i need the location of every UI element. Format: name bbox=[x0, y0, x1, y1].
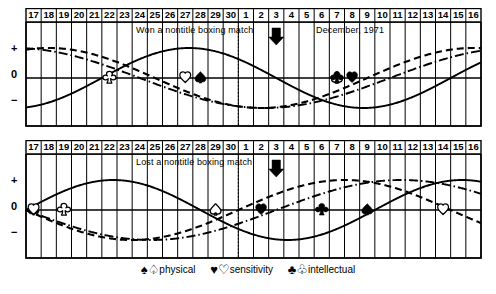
day-label-23: 23 bbox=[117, 141, 132, 152]
chart-panel-top: 1718192021222324252627282930123456789101… bbox=[0, 8, 496, 130]
day-label-1: 1 bbox=[238, 141, 253, 152]
day-label-13: 13 bbox=[420, 141, 435, 152]
day-label-6: 6 bbox=[314, 141, 329, 152]
axis-label-minus-bottom: − bbox=[11, 226, 17, 238]
day-label-25: 25 bbox=[147, 141, 162, 152]
day-label-16: 16 bbox=[466, 9, 481, 20]
day-label-8: 8 bbox=[345, 141, 360, 152]
day-label-3: 3 bbox=[269, 9, 284, 20]
day-label-1: 1 bbox=[238, 9, 253, 20]
event-label-bottom: Lost a nontitle boxing match bbox=[136, 157, 252, 167]
physical-filled-marker-icon bbox=[195, 72, 206, 83]
axis-label-minus-top: − bbox=[11, 94, 17, 106]
event-label-top: Won a nontitle boxing match bbox=[136, 25, 253, 35]
legend-label-intellectual: intellectual bbox=[308, 264, 355, 275]
day-label-23: 23 bbox=[117, 9, 132, 20]
sensitivity-filled-marker-icon bbox=[347, 72, 358, 83]
day-label-19: 19 bbox=[56, 141, 71, 152]
physical-open-marker-icon bbox=[210, 204, 221, 215]
day-label-9: 9 bbox=[360, 9, 375, 20]
spade-filled-icon: ♠ bbox=[141, 262, 148, 277]
day-label-27: 27 bbox=[178, 9, 193, 20]
sensitivity-filled-marker-icon bbox=[256, 204, 267, 215]
day-label-18: 18 bbox=[41, 141, 56, 152]
day-label-11: 11 bbox=[390, 9, 405, 20]
day-label-14: 14 bbox=[436, 141, 451, 152]
day-label-6: 6 bbox=[314, 9, 329, 20]
axis-label-zero-top: 0 bbox=[11, 68, 17, 80]
event-arrow-icon bbox=[269, 28, 284, 45]
day-label-30: 30 bbox=[223, 141, 238, 152]
legend: ♠♤physical ♥♡sensitivity ♣♧intellectual bbox=[0, 262, 496, 277]
day-label-28: 28 bbox=[193, 141, 208, 152]
day-label-5: 5 bbox=[299, 9, 314, 20]
day-label-3: 3 bbox=[269, 141, 284, 152]
day-label-30: 30 bbox=[223, 9, 238, 20]
legend-entry-physical: ♠♤physical bbox=[141, 264, 196, 275]
day-label-10: 10 bbox=[375, 141, 390, 152]
day-label-2: 2 bbox=[254, 141, 269, 152]
day-label-15: 15 bbox=[451, 141, 466, 152]
club-open-icon: ♧ bbox=[296, 262, 308, 277]
chart-panel-bottom: 1718192021222324252627282930123456789101… bbox=[0, 140, 496, 262]
axis-label-plus-top: + bbox=[11, 42, 17, 54]
day-label-11: 11 bbox=[390, 141, 405, 152]
spade-open-icon: ♤ bbox=[148, 262, 160, 277]
day-label-17: 17 bbox=[26, 9, 41, 20]
sensitivity-open-marker-icon bbox=[438, 204, 449, 215]
legend-entry-intellectual: ♣♧intellectual bbox=[288, 264, 355, 275]
physical-filled-marker-icon bbox=[362, 204, 373, 215]
legend-label-physical: physical bbox=[159, 264, 195, 275]
intellectual-open-marker-icon bbox=[103, 71, 116, 83]
day-label-16: 16 bbox=[466, 141, 481, 152]
day-label-9: 9 bbox=[360, 141, 375, 152]
legend-entry-sensitivity: ♥♡sensitivity bbox=[210, 264, 273, 275]
day-label-4: 4 bbox=[284, 141, 299, 152]
day-label-21: 21 bbox=[87, 9, 102, 20]
day-label-5: 5 bbox=[299, 141, 314, 152]
day-label-17: 17 bbox=[26, 141, 41, 152]
legend-label-sensitivity: sensitivity bbox=[230, 264, 273, 275]
day-label-19: 19 bbox=[56, 9, 71, 20]
day-label-22: 22 bbox=[102, 141, 117, 152]
day-label-26: 26 bbox=[163, 141, 178, 152]
day-label-15: 15 bbox=[451, 9, 466, 20]
day-label-24: 24 bbox=[132, 141, 147, 152]
day-label-29: 29 bbox=[208, 9, 223, 20]
axis-label-zero-bottom: 0 bbox=[11, 200, 17, 212]
day-label-27: 27 bbox=[178, 141, 193, 152]
day-label-12: 12 bbox=[405, 141, 420, 152]
day-label-24: 24 bbox=[132, 9, 147, 20]
biorhythm-chart: 1718192021222324252627282930123456789101… bbox=[0, 0, 496, 294]
day-label-4: 4 bbox=[284, 9, 299, 20]
day-label-10: 10 bbox=[375, 9, 390, 20]
day-label-18: 18 bbox=[41, 9, 56, 20]
day-label-20: 20 bbox=[72, 141, 87, 152]
day-label-21: 21 bbox=[87, 141, 102, 152]
intellectual-open-marker-icon bbox=[57, 203, 70, 215]
day-label-29: 29 bbox=[208, 141, 223, 152]
day-label-20: 20 bbox=[72, 9, 87, 20]
heart-filled-icon: ♥ bbox=[210, 262, 218, 277]
day-label-8: 8 bbox=[345, 9, 360, 20]
day-label-25: 25 bbox=[147, 9, 162, 20]
day-label-2: 2 bbox=[254, 9, 269, 20]
day-label-22: 22 bbox=[102, 9, 117, 20]
event-arrow-icon bbox=[269, 160, 284, 177]
intellectual-filled-marker-icon bbox=[315, 203, 328, 215]
sensitivity-open-marker-icon bbox=[180, 72, 191, 83]
date-label-top: December, 1971 bbox=[316, 25, 384, 35]
day-label-12: 12 bbox=[405, 9, 420, 20]
day-label-13: 13 bbox=[420, 9, 435, 20]
heart-open-icon: ♡ bbox=[218, 262, 230, 277]
day-label-28: 28 bbox=[193, 9, 208, 20]
day-label-7: 7 bbox=[329, 9, 344, 20]
day-label-26: 26 bbox=[163, 9, 178, 20]
axis-label-plus-bottom: + bbox=[11, 174, 17, 186]
day-label-14: 14 bbox=[436, 9, 451, 20]
day-label-7: 7 bbox=[329, 141, 344, 152]
